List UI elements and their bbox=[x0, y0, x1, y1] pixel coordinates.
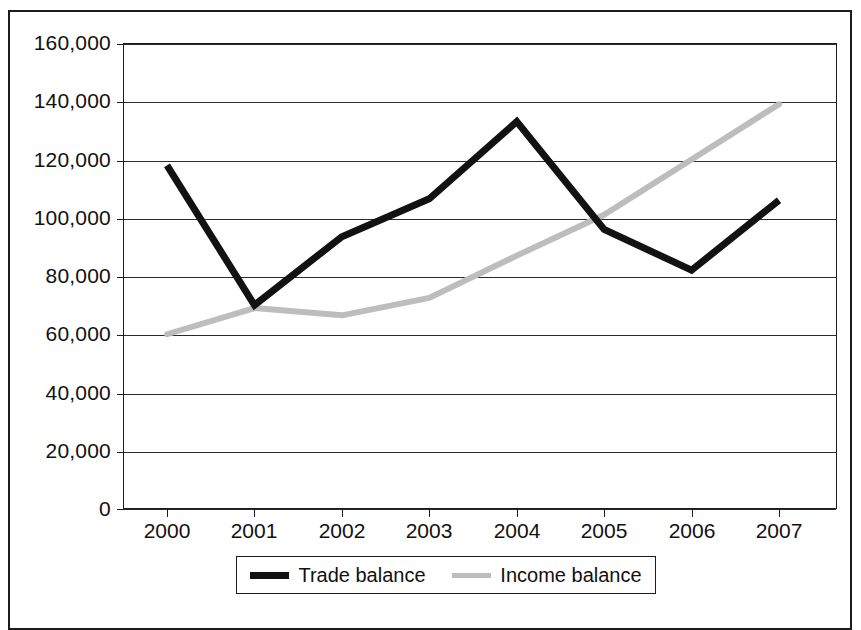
y-axis-labels: 160,000 140,000 120,000 100,000 80,000 6… bbox=[0, 43, 111, 509]
x-tick-mark-2000 bbox=[167, 509, 168, 517]
x-axis-labels: 2000 2001 2002 2003 2004 2005 2006 2007 bbox=[123, 519, 837, 549]
legend-swatch-trade-balance-icon bbox=[250, 572, 289, 579]
series-layer bbox=[123, 43, 837, 509]
x-tick-mark-2005 bbox=[604, 509, 605, 517]
y-tick-label-120000: 120,000 bbox=[34, 148, 111, 172]
legend-label-income-balance: Income balance bbox=[500, 564, 641, 587]
x-tick-label-2003: 2003 bbox=[406, 519, 453, 543]
y-tick-label-60000: 60,000 bbox=[46, 322, 111, 346]
x-tick-mark-2002 bbox=[342, 509, 343, 517]
legend-label-trade-balance: Trade balance bbox=[298, 564, 425, 587]
x-tick-label-2006: 2006 bbox=[669, 519, 716, 543]
legend-entry-income-balance: Income balance bbox=[452, 564, 641, 587]
y-tick-label-160000: 160,000 bbox=[34, 31, 111, 55]
legend-swatch-income-balance-icon bbox=[452, 573, 491, 578]
x-tick-mark-2007 bbox=[779, 509, 780, 517]
x-tick-label-2000: 2000 bbox=[144, 519, 191, 543]
x-tick-mark-2001 bbox=[254, 509, 255, 517]
x-tick-label-2001: 2001 bbox=[231, 519, 278, 543]
x-tick-mark-2003 bbox=[429, 509, 430, 517]
y-tick-label-40000: 40,000 bbox=[46, 381, 111, 405]
legend-entry-trade-balance: Trade balance bbox=[250, 564, 425, 587]
x-tick-mark-2006 bbox=[692, 509, 693, 517]
y-tick-label-140000: 140,000 bbox=[34, 89, 111, 113]
x-axis-ticks bbox=[123, 509, 837, 519]
y-tick-label-80000: 80,000 bbox=[46, 264, 111, 288]
chart-legend: Trade balance Income balance bbox=[236, 556, 656, 594]
y-tick-label-20000: 20,000 bbox=[46, 439, 111, 463]
x-tick-mark-2004 bbox=[517, 509, 518, 517]
y-tick-label-0: 0 bbox=[99, 497, 111, 521]
x-tick-label-2004: 2004 bbox=[494, 519, 541, 543]
x-tick-label-2007: 2007 bbox=[756, 519, 803, 543]
x-tick-label-2002: 2002 bbox=[319, 519, 366, 543]
y-tick-label-100000: 100,000 bbox=[34, 206, 111, 230]
x-tick-label-2005: 2005 bbox=[581, 519, 628, 543]
